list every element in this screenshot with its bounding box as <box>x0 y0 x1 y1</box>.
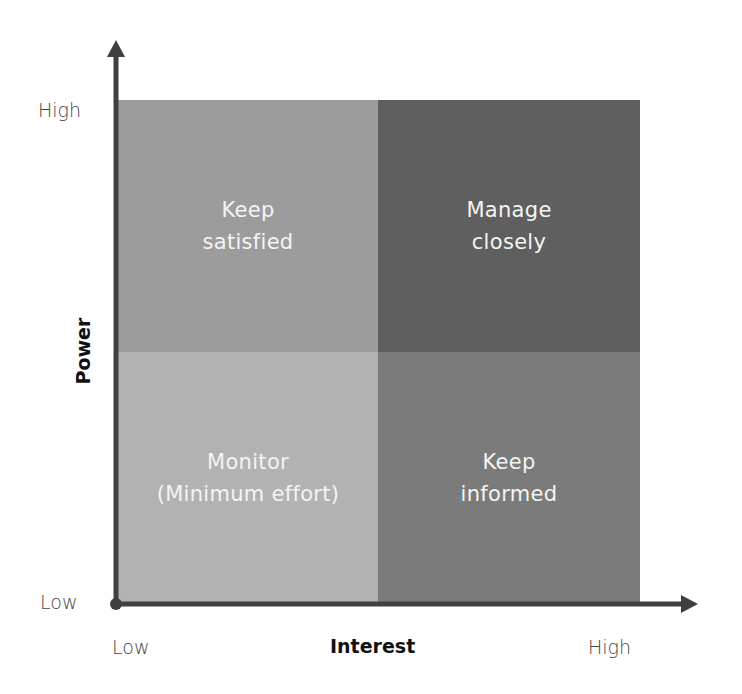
x-axis-high-label: High <box>588 636 631 658</box>
y-axis-high-label: High <box>38 99 81 121</box>
y-axis-low-label: Low <box>40 591 77 613</box>
x-axis-arrow-icon <box>116 595 698 613</box>
x-axis-low-label: Low <box>112 636 149 658</box>
y-axis-arrow-icon <box>107 40 125 604</box>
x-axis-title: Interest <box>330 635 415 657</box>
y-axis-title: Power <box>72 316 94 386</box>
axes <box>0 0 742 694</box>
origin-dot-icon <box>110 598 122 610</box>
